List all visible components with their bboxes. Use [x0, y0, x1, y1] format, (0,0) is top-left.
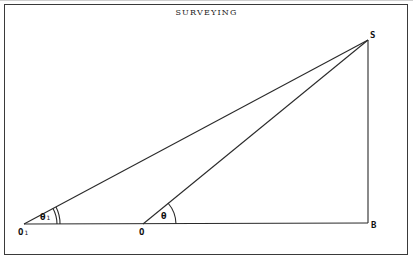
point-label-o1: O1: [18, 227, 28, 237]
point-label-b: B: [371, 220, 377, 230]
angle-label-theta1: θ1: [40, 213, 51, 222]
segment-o-s: [143, 40, 368, 224]
point-label-s: S: [370, 30, 375, 40]
angle-label-theta: θ: [161, 212, 167, 221]
angle-arc-o: [168, 203, 176, 224]
segment-o1-s: [24, 40, 368, 224]
surveying-diagram: S B O O1 θ1 θ: [0, 0, 413, 262]
angle-arc-o1-inner: [53, 209, 57, 225]
segment-o1-b: [24, 223, 368, 224]
point-label-o: O: [139, 227, 145, 237]
